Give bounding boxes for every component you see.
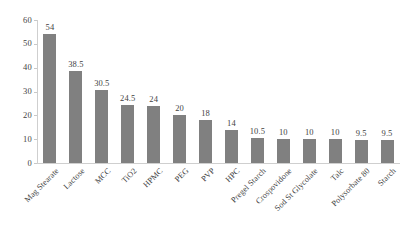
bar[interactable]: [147, 106, 160, 163]
bar[interactable]: [329, 139, 342, 163]
bar-chart: 0102030405060 5438.530.524.52420181410.5…: [0, 0, 410, 242]
bar-value-label: 30.5: [89, 79, 115, 88]
bar-value-label: 54: [37, 23, 63, 32]
bar-value-label: 9.5: [348, 129, 374, 138]
bar[interactable]: [355, 140, 368, 163]
bar-value-label: 38.5: [63, 60, 89, 69]
bar-value-label: 10: [296, 128, 322, 137]
bar[interactable]: [43, 34, 56, 163]
bars-layer: 5438.530.524.52420181410.51010109.59.5: [0, 0, 410, 242]
bar-value-label: 24: [141, 95, 167, 104]
bar-value-label: 10: [322, 128, 348, 137]
bar[interactable]: [173, 115, 186, 163]
bar[interactable]: [303, 139, 316, 163]
bar[interactable]: [69, 71, 82, 163]
bar[interactable]: [277, 139, 290, 163]
bar[interactable]: [199, 120, 212, 163]
bar-value-label: 24.5: [115, 94, 141, 103]
bar-value-label: 20: [167, 104, 193, 113]
bar[interactable]: [121, 105, 134, 163]
bar-value-label: 9.5: [374, 129, 400, 138]
bar[interactable]: [225, 130, 238, 163]
bar-value-label: 10.5: [244, 127, 270, 136]
bar-value-label: 10: [270, 128, 296, 137]
bar[interactable]: [381, 140, 394, 163]
bar-value-label: 18: [193, 109, 219, 118]
bar[interactable]: [95, 90, 108, 163]
bar[interactable]: [251, 138, 264, 163]
bar-value-label: 14: [219, 119, 245, 128]
